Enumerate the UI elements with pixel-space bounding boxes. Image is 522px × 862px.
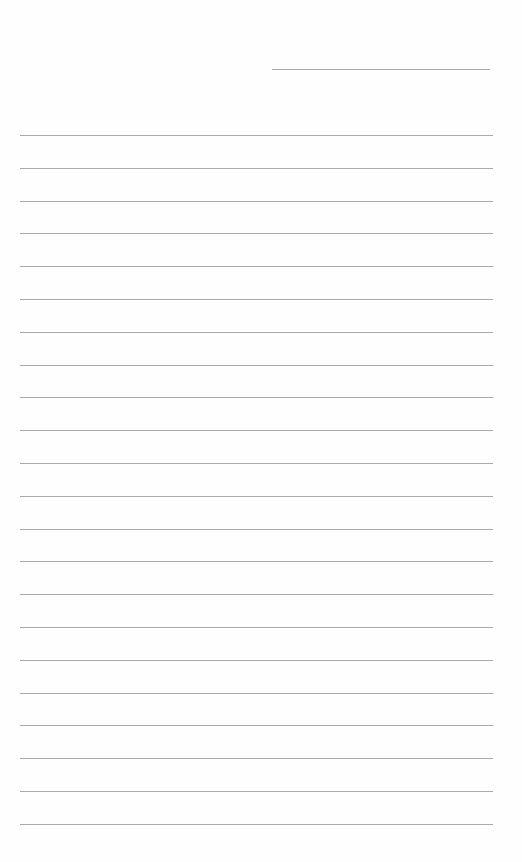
ruled-line: [20, 725, 493, 726]
ruled-line: [20, 660, 493, 661]
ruled-line: [20, 627, 493, 628]
ruled-line: [20, 529, 493, 530]
ruled-line: [20, 430, 493, 431]
ruled-line: [20, 561, 493, 562]
ruled-line: [20, 266, 493, 267]
ruled-line: [20, 594, 493, 595]
ruled-line: [20, 168, 493, 169]
ruled-line: [20, 496, 493, 497]
ruled-line: [20, 135, 493, 136]
header-line: [272, 69, 490, 70]
ruled-line: [20, 233, 493, 234]
ruled-line: [20, 299, 493, 300]
ruled-line: [20, 758, 493, 759]
ruled-line: [20, 365, 493, 366]
ruled-line: [20, 397, 493, 398]
ruled-line: [20, 332, 493, 333]
ruled-line: [20, 791, 493, 792]
ruled-line: [20, 463, 493, 464]
lined-page: [0, 0, 522, 862]
ruled-line: [20, 201, 493, 202]
ruled-line: [20, 824, 493, 825]
ruled-line: [20, 693, 493, 694]
